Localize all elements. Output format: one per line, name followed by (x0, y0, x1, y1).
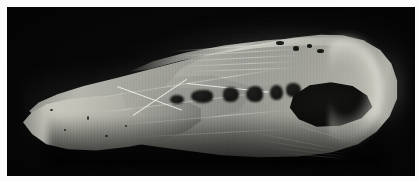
dark-fleck (276, 41, 284, 45)
dark-fleck (307, 44, 312, 48)
ventral-shadow (48, 115, 383, 169)
photographic-plate (7, 7, 415, 176)
dark-structure (170, 95, 184, 104)
dark-fleck (293, 46, 299, 51)
dark-structure (191, 90, 213, 103)
figure-root (0, 0, 419, 181)
dark-structure (270, 85, 283, 100)
specimen (7, 7, 415, 176)
dark-structure (246, 86, 263, 102)
